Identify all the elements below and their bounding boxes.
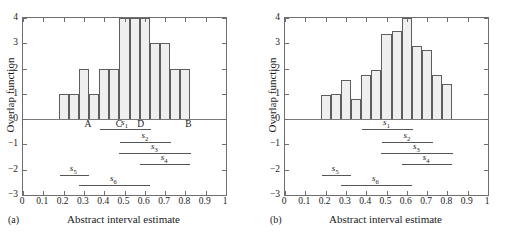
y-axis-tick — [285, 18, 289, 19]
interval-segment-s4 — [402, 164, 453, 165]
x-axis-tick-label: 0.6 — [400, 196, 412, 206]
y-axis-tick — [484, 43, 488, 44]
x-axis-tick — [346, 18, 347, 22]
x-axis-tick — [64, 18, 65, 22]
interval-segment-s6 — [341, 185, 412, 186]
x-axis-tick-label: 0.7 — [420, 196, 432, 206]
y-axis-tick — [23, 94, 27, 95]
histogram-bar — [412, 46, 422, 119]
y-axis-tick — [222, 69, 226, 70]
y-axis-tick — [484, 144, 488, 145]
histogram-bar — [351, 99, 361, 119]
y-axis-tick — [23, 144, 27, 145]
x-axis-tick-label: 0 — [20, 196, 25, 206]
interval-segment-label-s5: s5 — [70, 163, 77, 175]
y-axis-tick — [23, 119, 27, 120]
x-axis-tick — [165, 191, 166, 195]
histogram-bar — [392, 31, 402, 119]
histogram-bar — [331, 94, 341, 119]
histogram-bar — [109, 69, 119, 120]
x-axis-tick-label: 0.8 — [178, 196, 190, 206]
histogram-bar — [130, 18, 140, 119]
x-axis-tick — [387, 18, 388, 22]
x-axis-tick — [305, 18, 306, 22]
x-axis-tick-label: 1 — [223, 196, 228, 206]
x-axis-tick — [185, 18, 186, 22]
y-axis-tick — [285, 119, 289, 120]
x-axis-tick-label: 0 — [282, 196, 287, 206]
panel-letter-a: (a) — [8, 214, 19, 225]
y-axis-tick-label: 0 — [264, 113, 280, 123]
y-axis-tick — [484, 18, 488, 19]
y-axis-tick — [222, 94, 226, 95]
x-axis-title-a: Abstract interval estimate — [67, 213, 180, 225]
y-axis-tick — [23, 69, 27, 70]
x-axis-tick-label: 0.3 — [77, 196, 89, 206]
x-axis-tick — [226, 18, 227, 22]
x-axis-tick-label: 0.9 — [461, 196, 473, 206]
interval-segment-label-s1: s1 — [121, 117, 128, 129]
y-axis-tick-label: 1 — [264, 88, 280, 98]
x-axis-tick — [165, 18, 166, 22]
interval-segment-s4 — [140, 164, 191, 165]
histogram-bar — [119, 18, 129, 119]
x-axis-tick — [104, 18, 105, 22]
histogram-bar — [160, 43, 170, 119]
interval-segment-s3 — [119, 153, 191, 154]
y-axis-tick-label: 2 — [264, 63, 280, 73]
interval-segment-label-s6: s6 — [372, 173, 379, 185]
y-axis-tick-label: −1 — [264, 138, 280, 148]
y-axis-tick-label: 0 — [2, 113, 18, 123]
histogram-bar — [361, 75, 371, 119]
y-axis-tick — [23, 43, 27, 44]
y-axis-tick-label: −1 — [2, 138, 18, 148]
x-axis-tick — [84, 191, 85, 195]
interval-marker-d: D — [137, 119, 144, 129]
x-axis-tick — [427, 18, 428, 22]
x-axis-tick — [488, 18, 489, 22]
y-axis-tick — [222, 43, 226, 44]
x-axis-tick — [407, 18, 408, 22]
interval-segment-s2 — [382, 142, 433, 143]
y-axis-tick-label: −2 — [264, 164, 280, 174]
x-axis-tick-label: 1 — [485, 196, 490, 206]
y-axis-tick — [222, 144, 226, 145]
histogram-bar — [59, 94, 69, 119]
x-axis-tick-label: 0.5 — [118, 196, 130, 206]
x-axis-tick-label: 0.8 — [440, 196, 452, 206]
histogram-bar — [89, 94, 99, 119]
x-axis-tick-label: 0.1 — [36, 196, 48, 206]
histogram-bar — [371, 70, 381, 119]
x-axis-tick-label: 0.1 — [298, 196, 310, 206]
x-axis-tick — [185, 191, 186, 195]
x-axis-tick — [145, 191, 146, 195]
x-axis-tick-label: 0.9 — [199, 196, 211, 206]
interval-marker-a: A — [85, 119, 92, 129]
histogram-bar — [402, 18, 412, 119]
y-axis-tick-label: 4 — [264, 12, 280, 22]
histogram-bar — [180, 69, 190, 120]
y-axis-tick — [23, 170, 27, 171]
histogram-bar — [69, 94, 79, 119]
interval-segment-s5 — [322, 175, 351, 176]
x-axis-tick — [206, 18, 207, 22]
y-axis-tick-label: 1 — [2, 88, 18, 98]
x-axis-tick — [326, 18, 327, 22]
y-axis-tick — [285, 69, 289, 70]
x-axis-tick — [305, 191, 306, 195]
x-axis-tick — [43, 18, 44, 22]
y-axis-tick — [285, 144, 289, 145]
x-axis-title-b: Abstract interval estimate — [329, 213, 442, 225]
histogram-bar — [99, 69, 109, 120]
y-axis-tick — [285, 170, 289, 171]
interval-segment-s2 — [120, 142, 171, 143]
x-axis-tick — [387, 191, 388, 195]
y-axis-tick-label: 2 — [2, 63, 18, 73]
y-axis-tick-label: 4 — [2, 12, 18, 22]
x-axis-tick — [125, 191, 126, 195]
x-axis-tick — [104, 191, 105, 195]
interval-segment-s3 — [381, 153, 453, 154]
x-axis-tick — [346, 191, 347, 195]
x-axis-tick — [125, 18, 126, 22]
x-axis-tick-label: 0.2 — [57, 196, 69, 206]
